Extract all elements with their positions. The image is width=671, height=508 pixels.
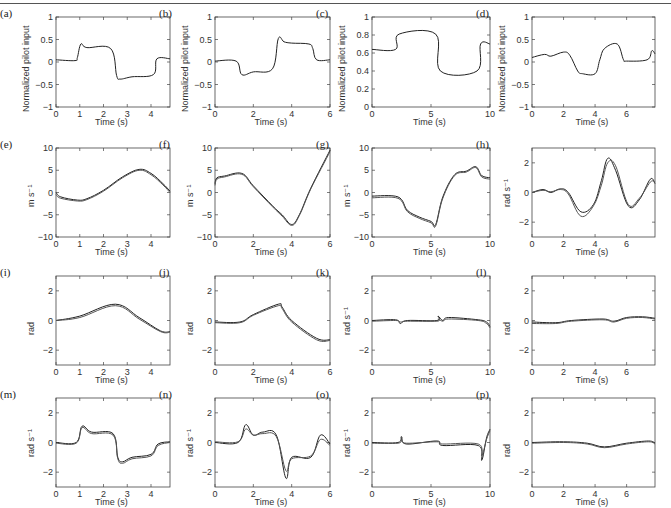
plot-area: 0246−202	[0, 0, 671, 508]
x-tick-label: 6	[624, 489, 629, 499]
x-tick-label: 4	[593, 489, 598, 499]
y-tick-label: −2	[519, 467, 529, 477]
series-line-measured	[532, 441, 655, 447]
y-tick-label: 2	[524, 408, 529, 418]
y-tick-label: 0	[524, 438, 529, 448]
x-tick-label: 2	[561, 489, 566, 499]
x-tick-label: 0	[529, 489, 534, 499]
